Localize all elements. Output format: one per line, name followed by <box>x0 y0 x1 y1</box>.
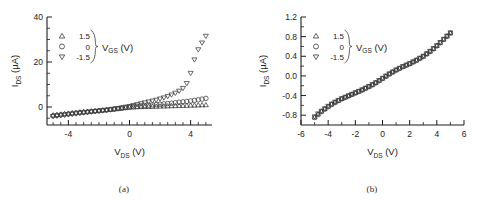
x-tick-label: 4 <box>434 129 439 139</box>
legend-title: VGS (V) <box>356 42 387 55</box>
y-tick-label: 40 <box>34 12 44 22</box>
y-tick-label: -0.4 <box>282 91 297 101</box>
x-axis-title: VDS (V) <box>367 146 398 159</box>
legend-title: VGS (V) <box>102 42 133 55</box>
panel-a: -40402040VDS (V)IDS (µA)1.50-1.5VGS (V) … <box>0 0 248 200</box>
triangle-down-marker <box>196 48 201 52</box>
y-tick-group: 02040 <box>34 12 52 118</box>
figure-container: -40402040VDS (V)IDS (µA)1.50-1.5VGS (V) … <box>0 0 496 200</box>
x-tick-label: -2 <box>352 129 360 139</box>
y-tick-label: -0.8 <box>282 110 297 120</box>
y-tick-label: 0.0 <box>285 71 297 81</box>
y-tick-label: 0 <box>38 102 43 112</box>
legend: 1.50-1.5VGS (V) <box>59 30 133 63</box>
legend-item: 1.5 <box>313 32 344 41</box>
legend-item: 0 <box>314 43 345 52</box>
panel-a-plot: -40402040VDS (V)IDS (µA)1.50-1.5VGS (V) <box>0 0 248 200</box>
panel-b-plot: -6-4-20246-0.8-0.40.00.40.81.2VDS (V)IDS… <box>248 0 496 200</box>
x-tick-group: -404 <box>53 120 206 139</box>
legend-brace <box>345 30 353 63</box>
y-tick-label: 1.2 <box>285 12 297 22</box>
triangle-up-marker <box>313 33 318 38</box>
panel-a-caption: (a) <box>0 184 248 194</box>
triangle-up-marker <box>203 102 208 106</box>
triangle-down-marker <box>200 41 205 45</box>
legend-value: 1.5 <box>333 32 345 41</box>
panel-b: -6-4-20246-0.8-0.40.00.40.81.2VDS (V)IDS… <box>248 0 496 200</box>
triangle-down-marker <box>59 55 64 60</box>
legend-value: -1.5 <box>76 53 90 62</box>
x-tick-group: -6-4-20246 <box>297 120 466 139</box>
circle-marker <box>314 44 319 49</box>
triangle-up-marker <box>59 33 64 38</box>
y-tick-label: 0.4 <box>285 51 297 61</box>
legend-value: 0 <box>340 43 345 52</box>
legend-item: 1.5 <box>59 32 90 41</box>
y-tick-label: 20 <box>34 57 44 67</box>
x-tick-label: -6 <box>297 129 305 139</box>
x-axis-title: VDS (V) <box>114 146 145 159</box>
triangle-down-marker <box>313 55 318 60</box>
legend-value: -1.5 <box>330 53 344 62</box>
legend-item: -1.5 <box>313 53 344 62</box>
triangle-down-marker <box>184 82 189 86</box>
y-tick-label: 0.8 <box>285 32 297 42</box>
legend-value: 0 <box>86 43 91 52</box>
x-tick-label: -4 <box>324 129 332 139</box>
legend: 1.50-1.5VGS (V) <box>313 30 387 63</box>
x-tick-label: 4 <box>188 129 193 139</box>
x-tick-label: 6 <box>462 129 467 139</box>
y-axis-title: IDS (µA) <box>257 55 270 87</box>
y-axis-title: IDS (µA) <box>9 55 22 87</box>
triangle-down-marker <box>203 34 208 38</box>
x-tick-label: 2 <box>407 129 412 139</box>
axes-frame <box>301 17 464 125</box>
triangle-down-marker <box>192 58 197 62</box>
x-tick-label: -4 <box>65 129 73 139</box>
panel-b-caption: (b) <box>248 184 496 194</box>
triangle-down-marker <box>188 71 193 75</box>
legend-value: 1.5 <box>79 32 91 41</box>
circle-marker <box>60 44 65 49</box>
y-tick-group: -0.8-0.40.00.40.81.2 <box>282 12 306 120</box>
legend-item: 0 <box>60 43 91 52</box>
legend-item: -1.5 <box>59 53 90 62</box>
x-tick-label: 0 <box>127 129 132 139</box>
x-tick-label: 0 <box>380 129 385 139</box>
legend-brace <box>91 30 99 63</box>
